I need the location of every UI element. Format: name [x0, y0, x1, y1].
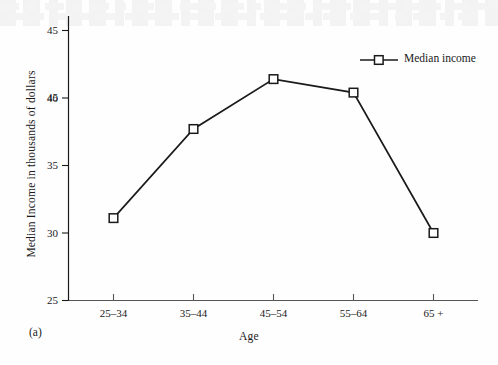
x-axis-tick-35-44: 35–44: [154, 307, 234, 319]
y-axis-tick-25: 25: [24, 294, 58, 306]
legend-label-median-income: Median income: [404, 52, 476, 64]
x-axis-title: Age: [0, 330, 498, 342]
chart-figure: 45 45 45 40 35 30 25 25–34 35–44 45–54 5…: [0, 0, 498, 365]
panel-label: (a): [29, 326, 42, 338]
y-axis-tick-45: 45: [24, 24, 58, 36]
x-axis-tick-25-34: 25–34: [74, 307, 154, 319]
x-axis-tick-65-plus: 65 +: [394, 307, 474, 319]
y-axis-title: Median Income in thousands of dollars: [25, 49, 37, 279]
x-axis-tick-55-64: 55–64: [314, 307, 394, 319]
x-axis-tick-45-54: 45–54: [234, 307, 314, 319]
